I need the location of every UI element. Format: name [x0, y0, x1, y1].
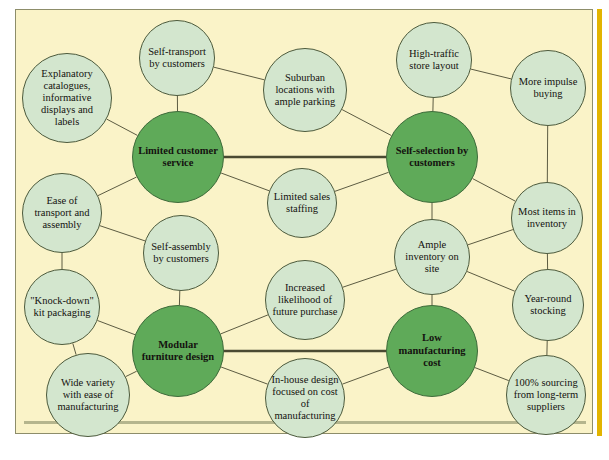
link-n3-h2 [342, 110, 391, 136]
node-label: Wide variety with ease of manufacturing [47, 377, 129, 413]
link-n11-h3 [98, 321, 136, 335]
concept-node-n4[interactable]: High-traffic store layout [396, 22, 472, 98]
node-label: Self-selection by customers [387, 145, 477, 170]
node-label: Explanatory catalogues, informative disp… [23, 68, 111, 128]
concept-node-n1[interactable]: Explanatory catalogues, informative disp… [22, 53, 112, 143]
node-label: 100% sourcing from long-term suppliers [507, 377, 585, 413]
node-label: In-house design focused on cost of manuf… [266, 374, 344, 422]
node-label: Limited customer service [133, 145, 223, 170]
node-label: Year-round stocking [513, 293, 583, 317]
concept-node-n12[interactable]: Increased likelihood of future purchase [265, 260, 345, 340]
link-n10-n8 [468, 230, 513, 245]
node-label: Ease of transport and assembly [23, 195, 101, 231]
link-n7-h2 [335, 172, 389, 191]
node-label: Ample inventory on site [395, 239, 469, 275]
concept-node-n11[interactable]: "Knock-down" kit packaging [24, 269, 100, 345]
concept-node-n3[interactable]: Suburban locations with ample parking [263, 48, 347, 132]
hub-node-h2[interactable]: Self-selection by customers [386, 111, 478, 203]
node-label: Limited sales staffing [268, 191, 336, 215]
concept-node-n9[interactable]: Self-assembly by customers [143, 215, 219, 291]
hub-node-h4[interactable]: Low manufacturing cost [386, 305, 478, 397]
concept-node-n8[interactable]: Most items in inventory [511, 182, 583, 254]
node-label: Increased likelihood of future purchase [266, 282, 344, 318]
node-label: Self-transport by customers [140, 46, 214, 70]
node-label: More impulse buying [511, 76, 585, 100]
link-n2-n3 [214, 67, 264, 80]
hub-node-h1[interactable]: Limited customer service [132, 111, 224, 203]
link-h1-n7 [221, 173, 269, 191]
concept-node-n7[interactable]: Limited sales staffing [267, 168, 337, 238]
node-label: "Knock-down" kit packaging [25, 295, 99, 319]
link-n15-h4 [343, 367, 389, 384]
concept-node-n5[interactable]: More impulse buying [510, 50, 586, 126]
node-label: High-traffic store layout [397, 48, 471, 72]
link-n14-h3 [126, 371, 137, 376]
node-label: Suburban locations with ample parking [264, 72, 346, 108]
link-h3-n15 [221, 367, 267, 384]
link-n11-n14 [73, 343, 76, 354]
concept-node-n13[interactable]: Year-round stocking [512, 269, 584, 341]
link-n6-n9 [100, 226, 145, 241]
link-h2-n8 [473, 179, 516, 202]
concept-node-n16[interactable]: 100% sourcing from long-term suppliers [506, 355, 586, 435]
diagram-canvas: Explanatory catalogues, informative disp… [0, 0, 609, 460]
link-h4-n16 [475, 368, 509, 381]
node-label: Self-assembly by customers [144, 241, 218, 265]
link-n6-h1 [98, 177, 137, 196]
hub-node-h3[interactable]: Modular furniture design [132, 305, 224, 397]
concept-node-n6[interactable]: Ease of transport and assembly [22, 173, 102, 253]
link-n1-h1 [107, 119, 138, 135]
node-label: Most items in inventory [512, 206, 582, 230]
link-n10-n13 [467, 272, 515, 292]
concept-node-n14[interactable]: Wide variety with ease of manufacturing [46, 353, 130, 437]
concept-node-n15[interactable]: In-house design focused on cost of manuf… [265, 358, 345, 438]
concept-node-n2[interactable]: Self-transport by customers [139, 20, 215, 96]
link-n12-n10 [343, 269, 396, 287]
node-label: Low manufacturing cost [387, 332, 477, 370]
link-n4-n5 [471, 69, 511, 79]
concept-node-n10[interactable]: Ample inventory on site [394, 219, 470, 295]
node-label: Modular furniture design [133, 339, 223, 364]
link-h3-n12 [221, 315, 268, 334]
